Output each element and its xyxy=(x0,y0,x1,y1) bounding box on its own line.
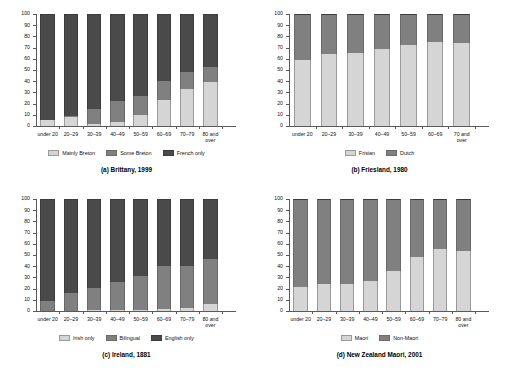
y-tick-label: 10 xyxy=(14,297,30,302)
bar-segment xyxy=(110,101,124,121)
y-tick-label: 90 xyxy=(14,23,30,28)
bar-segment xyxy=(40,120,54,126)
bar-b-0 xyxy=(294,14,310,126)
x-tick xyxy=(429,311,430,314)
x-tick xyxy=(176,126,177,129)
bar-segment xyxy=(64,199,78,293)
bar-c-4 xyxy=(133,199,147,311)
bar-segment xyxy=(133,310,147,311)
bar-d-3 xyxy=(363,199,377,311)
bar-segment xyxy=(157,199,171,266)
bar-segment xyxy=(64,293,78,311)
plot-area-c xyxy=(36,199,222,311)
bar-segment xyxy=(133,199,147,276)
legend-label: Some Breton xyxy=(120,150,151,156)
bar-segment xyxy=(203,304,217,311)
legend-item: Frisian xyxy=(345,150,375,156)
bar-d-0 xyxy=(293,199,307,311)
y-tick-label: 50 xyxy=(14,252,30,257)
bar-segment xyxy=(133,115,147,126)
bar-b-2 xyxy=(347,14,363,126)
bar-a-3 xyxy=(110,14,124,126)
bar-segment xyxy=(433,199,447,249)
legend-swatch-icon xyxy=(386,150,397,156)
caption-d: (d) New Zealand Maori, 2001 xyxy=(253,351,506,358)
bar-segment xyxy=(180,308,194,311)
x-tick xyxy=(405,311,406,314)
x-tick xyxy=(395,126,396,129)
legend-swatch-icon xyxy=(345,150,356,156)
legend-item: Bilingual xyxy=(106,335,140,341)
plot-area-d xyxy=(289,199,475,311)
legend-item: Some Breton xyxy=(106,150,151,156)
bar-segment xyxy=(400,14,416,45)
bar-segment xyxy=(180,89,194,126)
bar-segment xyxy=(157,100,171,126)
x-tick xyxy=(369,126,370,129)
x-tick xyxy=(199,311,200,314)
x-tick xyxy=(316,126,317,129)
legend-d: MaoriNon-Maori xyxy=(253,335,506,341)
y-tick-label: 40 xyxy=(267,264,283,269)
bar-segment xyxy=(133,14,147,96)
legend-swatch-icon xyxy=(106,335,117,341)
x-tick xyxy=(222,311,223,314)
bar-segment xyxy=(133,96,147,115)
bar-a-2 xyxy=(87,14,101,126)
legend-swatch-icon xyxy=(106,150,117,156)
bar-segment xyxy=(203,67,217,83)
bar-d-2 xyxy=(340,199,354,311)
bar-segment xyxy=(340,284,354,311)
legend-label: French only xyxy=(177,150,205,156)
bar-segment xyxy=(317,284,331,311)
x-tick xyxy=(106,126,107,129)
legend-label: Irish only xyxy=(73,335,95,341)
x-tick xyxy=(475,126,476,129)
legend-label: Mainly Breton xyxy=(62,150,95,156)
y-tick-label: 30 xyxy=(267,275,283,280)
bar-segment xyxy=(203,199,217,259)
legend-label: Non-Maori xyxy=(393,335,418,341)
bar-segment xyxy=(293,287,307,311)
bar-segment xyxy=(321,54,337,126)
x-tick xyxy=(336,311,337,314)
legend-swatch-icon xyxy=(59,335,70,341)
chart-panel-d: 0102030405060708090100 under 2020–2930–3… xyxy=(253,185,506,370)
y-tick-label: 10 xyxy=(267,297,283,302)
bar-d-4 xyxy=(386,199,400,311)
y-tick-label: 20 xyxy=(267,101,283,106)
x-tick xyxy=(382,311,383,314)
bar-segment xyxy=(110,122,124,126)
bar-segment xyxy=(157,14,171,81)
bar-segment xyxy=(157,309,171,311)
bar-segment xyxy=(133,276,147,310)
bar-segment xyxy=(340,199,354,284)
y-tick-label: 100 xyxy=(14,11,30,16)
y-tick-label: 50 xyxy=(14,67,30,72)
x-tick xyxy=(83,126,84,129)
x-tick xyxy=(475,311,476,314)
y-tick-label: 80 xyxy=(267,219,283,224)
bar-segment xyxy=(293,199,307,287)
y-tick-label: 50 xyxy=(267,252,283,257)
bar-c-7 xyxy=(203,199,217,311)
y-tick-label: 70 xyxy=(267,45,283,50)
bar-c-6 xyxy=(180,199,194,311)
bar-c-5 xyxy=(157,199,171,311)
y-tick-label: 60 xyxy=(14,56,30,61)
bar-segment xyxy=(456,199,470,251)
x-axis-line-b xyxy=(289,126,489,127)
x-tick xyxy=(59,126,60,129)
legend-swatch-icon xyxy=(341,335,352,341)
bar-segment xyxy=(363,199,377,281)
y-tick-label: 70 xyxy=(14,45,30,50)
chart-panel-c: 0102030405060708090100 under 2020–2930–3… xyxy=(0,185,253,370)
y-tick-label: 20 xyxy=(14,101,30,106)
bar-a-6 xyxy=(180,14,194,126)
bar-a-4 xyxy=(133,14,147,126)
legend-item: English only xyxy=(151,335,194,341)
legend-label: Bilingual xyxy=(120,335,140,341)
bar-a-5 xyxy=(157,14,171,126)
x-tick xyxy=(199,126,200,129)
x-tick-label: 80 and over xyxy=(197,316,224,328)
